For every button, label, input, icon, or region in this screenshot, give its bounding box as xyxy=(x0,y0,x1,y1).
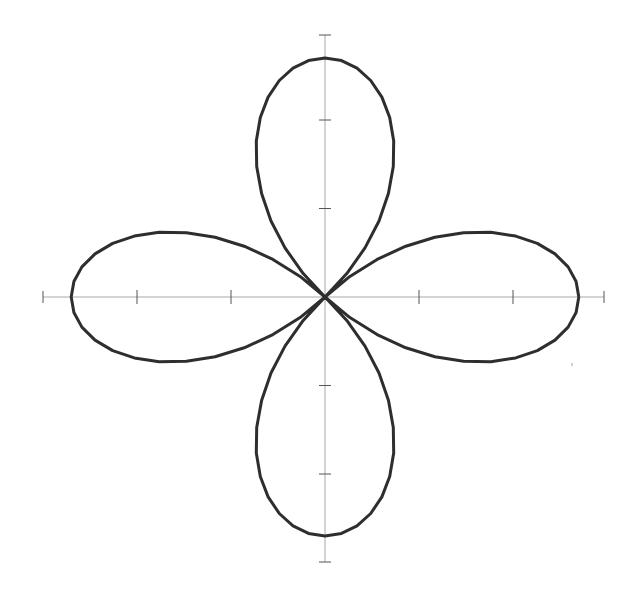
scan-artifact-dot xyxy=(571,363,573,366)
polar-rose-plot xyxy=(0,0,626,600)
